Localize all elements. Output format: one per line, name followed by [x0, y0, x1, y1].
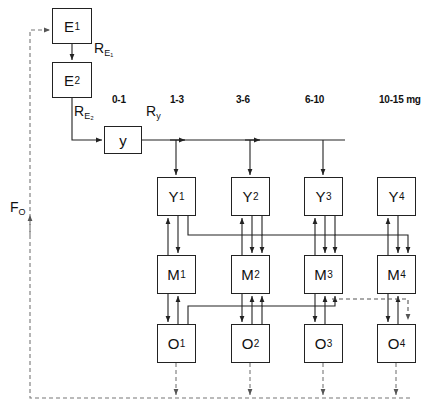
- node-M4[interactable]: M4: [377, 255, 416, 294]
- node-Y1-sub: 1: [178, 191, 184, 202]
- node-M2[interactable]: M2: [231, 255, 270, 294]
- node-M4-label: M: [387, 266, 400, 283]
- edge-label-f-o-sub: O: [19, 207, 26, 217]
- edge-label-r-e1-base: R: [94, 40, 104, 56]
- node-O4[interactable]: O4: [377, 324, 416, 363]
- node-y-label: y: [119, 132, 127, 149]
- node-O1-label: O: [168, 335, 180, 352]
- node-e2[interactable]: E2: [52, 62, 92, 98]
- node-M3-label: M: [314, 266, 327, 283]
- node-O2-sub: 2: [253, 338, 259, 349]
- node-O1-sub: 1: [179, 338, 185, 349]
- node-e2-sub: 2: [74, 75, 80, 86]
- dose-header-1: 1-3: [170, 94, 184, 105]
- edge-label-r-e2-base: R: [74, 103, 84, 119]
- node-O2-label: O: [242, 335, 254, 352]
- node-Y4[interactable]: Y4: [377, 177, 416, 216]
- node-Y1[interactable]: Y1: [157, 177, 196, 216]
- edge-label-r-y: Ry: [146, 103, 161, 121]
- node-M2-label: M: [241, 266, 254, 283]
- node-M1-label: M: [167, 266, 180, 283]
- node-M1-sub: 1: [180, 269, 186, 280]
- node-Y3-sub: 3: [325, 191, 331, 202]
- node-e1-label: E: [64, 18, 74, 35]
- node-e2-label: E: [64, 72, 74, 89]
- edge-label-f-o: FO: [10, 199, 26, 217]
- node-O2[interactable]: O2: [231, 324, 270, 363]
- node-O3-sub: 3: [326, 338, 332, 349]
- node-Y3[interactable]: Y3: [304, 177, 343, 216]
- node-Y2-sub: 2: [252, 191, 258, 202]
- node-Y1-label: Y: [168, 188, 178, 205]
- node-y[interactable]: y: [104, 126, 142, 154]
- node-M2-sub: 2: [254, 269, 260, 280]
- node-Y4-label: Y: [388, 188, 398, 205]
- node-Y2[interactable]: Y2: [231, 177, 270, 216]
- node-O4-label: O: [388, 335, 400, 352]
- node-e1[interactable]: E1: [52, 8, 92, 44]
- edge-label-r-y-sub: y: [156, 111, 161, 121]
- edge-label-r-e1: RE₁: [94, 40, 113, 58]
- node-O3[interactable]: O3: [304, 324, 343, 363]
- edge-label-r-e1-sub: E₁: [104, 48, 113, 58]
- edge-label-f-o-base: F: [10, 199, 19, 215]
- node-O1[interactable]: O1: [157, 324, 196, 363]
- block-diagram: 0-1 1-3 3-6 6-10 10-15 mg RE₁ RE₂ Ry FO …: [0, 0, 431, 413]
- node-O3-label: O: [315, 335, 327, 352]
- node-M4-sub: 4: [400, 269, 406, 280]
- dose-header-2: 3-6: [236, 94, 250, 105]
- dose-header-3: 6-10: [305, 94, 324, 105]
- edge-label-r-e2: RE₂: [74, 103, 94, 121]
- node-Y2-label: Y: [242, 188, 252, 205]
- node-e1-sub: 1: [74, 21, 80, 32]
- node-Y3-label: Y: [315, 188, 325, 205]
- dose-header-0: 0-1: [112, 94, 126, 105]
- node-M3[interactable]: M3: [304, 255, 343, 294]
- node-Y4-sub: 4: [398, 191, 404, 202]
- edge-label-r-e2-sub: E₂: [84, 111, 94, 121]
- node-M1[interactable]: M1: [157, 255, 196, 294]
- node-M3-sub: 3: [327, 269, 333, 280]
- node-O4-sub: 4: [399, 338, 405, 349]
- edge-label-r-y-base: R: [146, 103, 156, 119]
- dose-header-4: 10-15 mg: [379, 94, 421, 105]
